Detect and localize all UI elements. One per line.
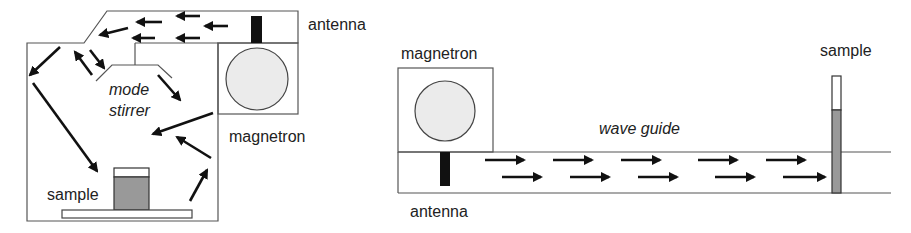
sample-tube-top [832, 76, 841, 110]
multimode-cavity-diagram: antenna magnetron mode stirrer sample [27, 11, 366, 221]
sample-tube-fill [832, 110, 841, 193]
label-magnetron-2: magnetron [401, 45, 478, 62]
sample-platform [62, 210, 192, 218]
sample-fill [114, 177, 149, 210]
label-magnetron: magnetron [229, 128, 306, 145]
waveguide-diagram: magnetron wave guide sample antenna [398, 42, 891, 220]
label-mode: mode [109, 81, 149, 98]
label-sample: sample [47, 186, 99, 203]
label-stirrer: stirrer [109, 102, 151, 119]
label-antenna: antenna [308, 16, 366, 33]
sample-container-top [114, 168, 149, 177]
magnetron-icon [226, 48, 288, 110]
antenna-icon [251, 16, 262, 43]
diagram-canvas: antenna magnetron mode stirrer sample ma… [0, 0, 911, 233]
label-sample-2: sample [820, 42, 872, 59]
label-antenna-2: antenna [410, 203, 468, 220]
antenna-icon-2 [440, 152, 450, 186]
label-wave-guide: wave guide [599, 120, 680, 137]
magnetron-icon-2 [415, 81, 475, 141]
